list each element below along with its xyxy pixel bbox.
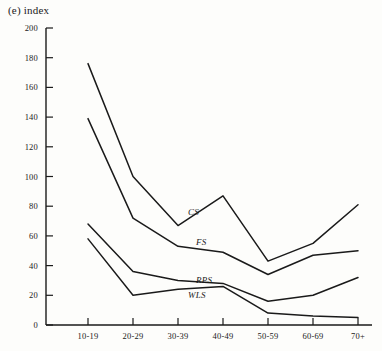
y-axis-tick-label: 140	[12, 112, 38, 122]
y-axis-tick-label: 60	[12, 231, 38, 241]
y-axis-tick-label: 200	[12, 23, 38, 33]
y-axis-tick-label: 100	[12, 172, 38, 182]
series-line-cs	[88, 64, 358, 262]
chart-container: (e) index 020406080100120140160180200 10…	[0, 0, 382, 351]
x-axis-tick-label: 70+	[335, 331, 381, 341]
series-line-wls	[88, 239, 358, 318]
data-series-group	[88, 64, 358, 318]
y-axis-tick-label: 120	[12, 142, 38, 152]
y-axis-tick-label: 0	[12, 320, 38, 330]
y-axis-tick-label: 20	[12, 290, 38, 300]
series-label-rps: RPS	[196, 275, 212, 285]
y-axis-tick-label: 180	[12, 53, 38, 63]
x-axis-tick-label: 40-49	[200, 331, 246, 341]
x-axis-tick-label: 10-19	[65, 331, 111, 341]
series-label-fs: FS	[196, 237, 207, 247]
y-axis-tick-label: 40	[12, 261, 38, 271]
x-axis-tick-label: 30-39	[155, 331, 201, 341]
x-axis-tick-label: 20-29	[110, 331, 156, 341]
x-axis-tick-label: 60-69	[290, 331, 336, 341]
series-label-wls: WLS	[188, 290, 206, 300]
x-axis-ticks	[88, 318, 358, 325]
y-axis-tick-label: 160	[12, 82, 38, 92]
series-label-cs: CS	[188, 207, 199, 217]
x-axis-tick-label: 50-59	[245, 331, 291, 341]
y-axis-tick-label: 80	[12, 201, 38, 211]
y-axis-ticks	[46, 28, 53, 325]
